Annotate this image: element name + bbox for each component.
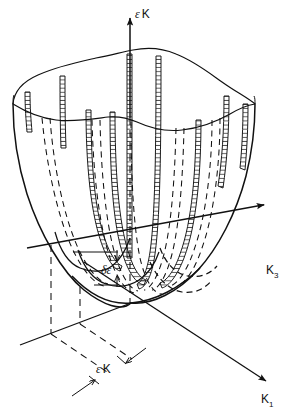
energy-band-diagram: K3 K1 (0, 0, 295, 409)
hatched-band-7 (160, 120, 201, 288)
figure-root: K3 K1 (0, 0, 295, 409)
k1-axis-line (84, 262, 266, 381)
k3-axis-label: K3 (266, 263, 279, 280)
projection-line-2 (80, 324, 132, 359)
k-spacing-label: εK (96, 362, 111, 376)
rim-back-edge (13, 48, 255, 104)
parabola-min-right-upper (160, 248, 217, 277)
base-projections-group (51, 324, 132, 374)
hatched-band-1 (25, 92, 32, 132)
spacing-arrow-left (72, 380, 95, 396)
solid-parabolas-group (55, 232, 217, 303)
spacing-tick-upper (117, 356, 126, 364)
spacing-arrow-right (126, 348, 146, 363)
base-plane-edge (20, 303, 131, 345)
rim-front-edge (13, 104, 255, 131)
k1-axis-group: K1 (84, 262, 274, 409)
hidden-parabola-a2 (50, 118, 108, 284)
hatched-band-9 (240, 104, 248, 170)
vertical-axis-label: εK (135, 7, 150, 21)
base-plane-group (20, 303, 131, 345)
k1-axis-label: K1 (261, 392, 274, 409)
vertical-axis-label-group: εK (135, 7, 150, 21)
hatched-band-6 (137, 56, 161, 289)
hatched-bands-group (25, 54, 248, 289)
energy-gap-label: δε (101, 263, 112, 277)
projection-line-1 (51, 334, 110, 374)
hatched-band-2 (60, 76, 66, 148)
k3-axis-line (27, 198, 264, 255)
